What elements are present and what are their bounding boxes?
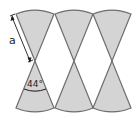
side-length-label: a [9, 34, 16, 47]
angle-label: 44° [27, 79, 43, 89]
sector-top-1 [16, 10, 54, 61]
sector-top-2 [55, 10, 93, 61]
sector-bottom-2 [55, 61, 93, 112]
sector-bottom-3 [93, 61, 131, 112]
sector-top-3 [93, 10, 131, 61]
sector-pattern-diagram: a 44° [0, 0, 139, 120]
